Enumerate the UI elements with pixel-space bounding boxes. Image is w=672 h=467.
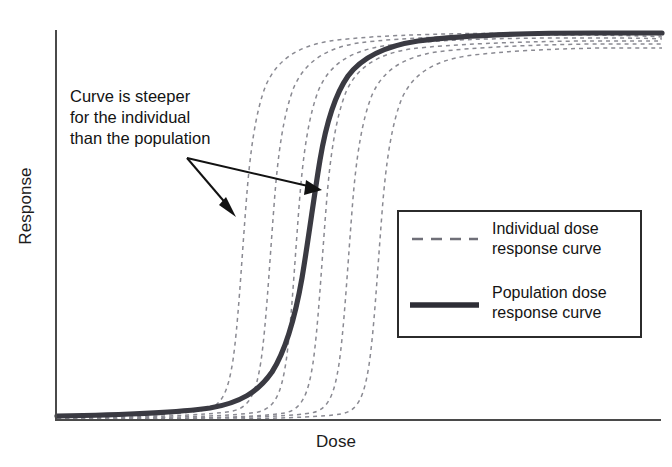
annotation-arrows-group xyxy=(187,158,322,217)
legend-label-individual: Individual dose response curve xyxy=(492,219,642,259)
dose-response-figure: Response Dose Curve is steeper for the i… xyxy=(0,0,672,467)
y-axis-label: Response xyxy=(16,156,36,256)
annotation-arrow-to-population xyxy=(187,158,308,186)
legend-label-population: Population dose response curve xyxy=(492,283,644,323)
annotation-text: Curve is steeper for the individual than… xyxy=(70,86,285,149)
x-axis-label: Dose xyxy=(0,432,672,452)
annotation-arrowhead-individual xyxy=(219,197,236,217)
